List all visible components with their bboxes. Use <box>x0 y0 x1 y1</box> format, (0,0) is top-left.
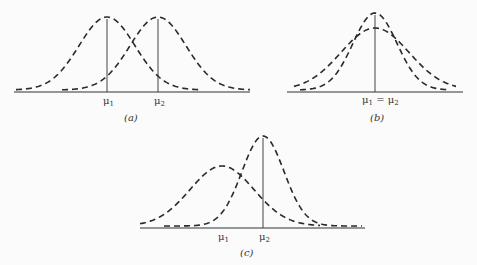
panel-c-curve-1 <box>140 166 320 225</box>
panel-b: μ1 = μ2 (b) <box>287 13 463 123</box>
panel-a-mu2-label: μ2 <box>154 95 165 108</box>
panel-c-mu2-label: μ2 <box>259 231 270 244</box>
panel-c: μ1 μ2 (c) <box>140 136 365 258</box>
panel-a-curve-1 <box>16 17 200 90</box>
panel-b-mu-label: μ1 = μ2 <box>362 94 399 107</box>
panel-c-mu1-label: μ1 <box>218 231 229 244</box>
normal-distribution-diagram: μ1 μ2 (a) μ1 = μ2 (b) μ1 μ2 (c) <box>0 0 477 265</box>
panel-a-caption: (a) <box>124 112 138 123</box>
panel-a: μ1 μ2 (a) <box>14 17 250 123</box>
panel-c-caption: (c) <box>240 247 254 258</box>
panel-b-caption: (b) <box>370 112 384 123</box>
panel-a-mu1-label: μ1 <box>103 95 114 108</box>
